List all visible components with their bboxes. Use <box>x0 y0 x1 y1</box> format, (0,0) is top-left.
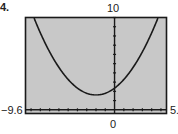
graph-screen <box>0 0 178 134</box>
screen-background <box>26 18 167 114</box>
